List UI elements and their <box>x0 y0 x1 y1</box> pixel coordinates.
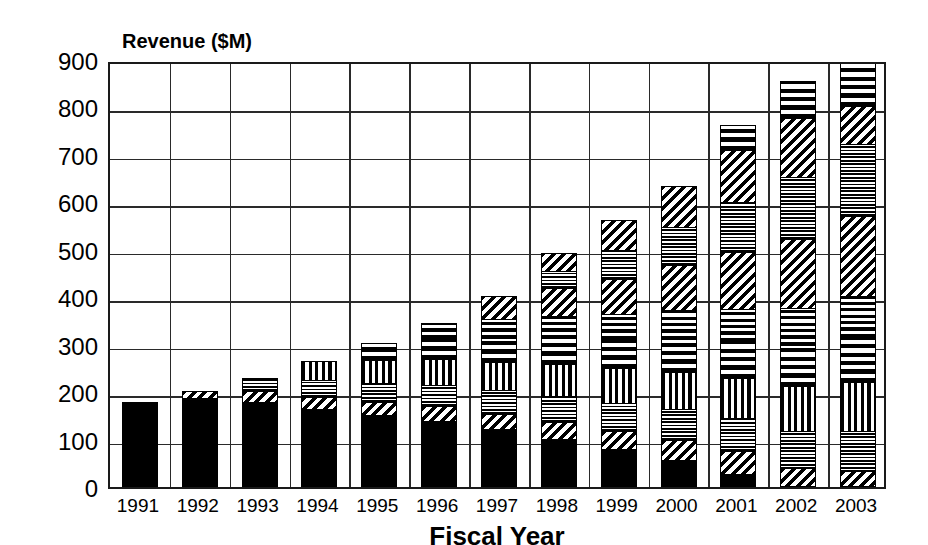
y-tick-label: 200 <box>8 380 98 408</box>
bar <box>541 253 577 487</box>
bar-segment <box>422 338 456 359</box>
bar-segment <box>243 378 277 391</box>
bar-segment <box>721 150 755 202</box>
bar-segment <box>721 378 755 418</box>
chart-figure: Revenue ($M) 900800700600500400300200100… <box>0 0 928 545</box>
x-axis-title: Fiscal Year <box>108 521 886 545</box>
bar-segment <box>362 415 396 486</box>
gridline-vertical <box>828 64 830 487</box>
bar-segment <box>362 360 396 383</box>
bar-segment <box>302 409 336 486</box>
x-tick-label: 1996 <box>407 495 467 517</box>
x-tick-label: 1993 <box>228 495 288 517</box>
bar-segment <box>482 429 516 486</box>
x-tick-label: 1991 <box>108 495 168 517</box>
bar-segment <box>602 431 636 449</box>
bar-segment <box>721 202 755 252</box>
y-tick-label: 0 <box>8 475 98 503</box>
bar-segment <box>422 359 456 385</box>
bar-segment <box>781 469 815 486</box>
bar <box>242 378 278 487</box>
bar-segment <box>542 364 576 396</box>
bar-segment <box>422 421 456 486</box>
bar <box>780 81 816 487</box>
bar-segment <box>542 316 576 337</box>
bar-segment <box>302 380 336 397</box>
gridline-vertical <box>708 64 710 487</box>
bar-segment <box>243 391 277 401</box>
y-tick-label: 700 <box>8 143 98 171</box>
bar-segment <box>841 144 875 215</box>
bar-segment <box>781 177 815 239</box>
y-tick-label: 300 <box>8 333 98 361</box>
gridline-vertical <box>409 64 411 487</box>
bar-segment <box>781 239 815 308</box>
gridline-vertical <box>469 64 471 487</box>
bar-segment <box>482 390 516 414</box>
bar-segment <box>841 472 875 486</box>
bar-segment <box>841 216 875 297</box>
bar-segment <box>602 279 636 315</box>
bar <box>122 402 158 487</box>
gridline-vertical <box>230 64 232 487</box>
bar-segment <box>542 271 576 288</box>
bar-segment <box>721 309 755 341</box>
bar-segment <box>721 125 755 150</box>
x-tick-label: 1997 <box>467 495 527 517</box>
gridline-vertical <box>649 64 651 487</box>
bar-segment <box>482 362 516 390</box>
bar-segment <box>243 402 277 486</box>
bar-segment <box>183 391 217 399</box>
bar <box>481 296 517 487</box>
bar-segment <box>542 253 576 271</box>
bar-segment <box>302 397 336 409</box>
bar-segment <box>781 431 815 469</box>
bar-segment <box>482 414 516 429</box>
x-tick-label: 2001 <box>706 495 766 517</box>
bar-segment <box>841 106 875 144</box>
bar-segment <box>542 422 576 439</box>
bar-segment <box>721 474 755 486</box>
bar-segment <box>781 386 815 431</box>
bar <box>601 220 637 487</box>
bar-segment <box>721 451 755 474</box>
x-tick-label: 1995 <box>347 495 407 517</box>
bar-segment <box>123 402 157 486</box>
bar-segment <box>602 449 636 486</box>
y-axis-title: Revenue ($M) <box>122 30 252 53</box>
bar-segment <box>542 338 576 364</box>
bar-segment <box>841 62 875 106</box>
bar-segment <box>422 385 456 406</box>
plot-area <box>108 62 886 489</box>
bar-segment <box>602 250 636 278</box>
bar <box>182 391 218 487</box>
bar-segment <box>781 81 815 118</box>
bar-segment <box>721 252 755 309</box>
bar-segment <box>602 314 636 339</box>
bar-segment <box>422 323 456 337</box>
bar-segment <box>482 319 516 338</box>
y-tick-label: 500 <box>8 238 98 266</box>
bar-segment <box>602 403 636 431</box>
bar-segment <box>602 220 636 250</box>
bar-segment <box>662 339 696 372</box>
bar-segment <box>542 396 576 422</box>
y-tick-label: 400 <box>8 285 98 313</box>
bar <box>720 125 756 487</box>
bar-segment <box>841 431 875 471</box>
bar-segment <box>721 418 755 451</box>
bar <box>301 361 337 487</box>
bar-segment <box>482 338 516 362</box>
bar-segment <box>662 265 696 310</box>
bar-segment <box>362 383 396 402</box>
bar-segment <box>542 288 576 316</box>
bar-segment <box>662 409 696 440</box>
bar <box>840 62 876 487</box>
x-tick-label: 1999 <box>587 495 647 517</box>
gridline-vertical <box>170 64 172 487</box>
bar-segment <box>602 339 636 368</box>
gridline-vertical <box>589 64 591 487</box>
bar-segment <box>362 402 396 415</box>
y-tick-label: 900 <box>8 48 98 76</box>
bar-segment <box>542 439 576 486</box>
